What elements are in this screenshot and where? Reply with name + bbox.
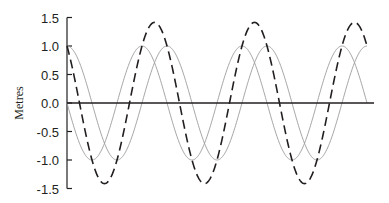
y-tick-label: -1.5 <box>37 182 59 197</box>
y-tick-label: 1.0 <box>41 39 59 54</box>
y-tick-label: 1.5 <box>41 11 59 26</box>
y-tick-label: -1.0 <box>37 153 59 168</box>
y-axis-label: Metres <box>12 86 26 120</box>
y-tick-label: 0.0 <box>41 96 59 111</box>
wave-chart: 1.51.00.50.0-0.5-1.0-1.5 Metres <box>0 0 389 203</box>
y-tick-label: -0.5 <box>37 125 59 140</box>
y-tick-label: 0.5 <box>41 68 59 83</box>
